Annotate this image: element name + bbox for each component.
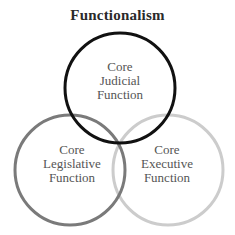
venn-diagram	[0, 0, 235, 235]
legislative-label-line-1: Core	[27, 143, 117, 157]
legislative-label-line-3: Function	[27, 171, 117, 185]
judicial-label: Core Judicial Function	[75, 60, 165, 102]
executive-label: Core Executive Function	[122, 143, 212, 185]
judicial-label-line-3: Function	[75, 88, 165, 102]
judicial-label-line-1: Core	[75, 60, 165, 74]
executive-label-line-3: Function	[122, 171, 212, 185]
executive-label-line-2: Executive	[122, 157, 212, 171]
judicial-label-line-2: Judicial	[75, 74, 165, 88]
legislative-label: Core Legislative Function	[27, 143, 117, 185]
legislative-label-line-2: Legislative	[27, 157, 117, 171]
executive-label-line-1: Core	[122, 143, 212, 157]
